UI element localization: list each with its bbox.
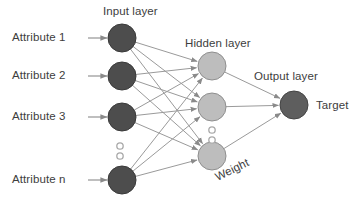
attribute-label-1: Attribute 1 xyxy=(12,31,66,44)
input-node-4 xyxy=(108,166,136,194)
neural-network-diagram: Input layer Hidden layer Output layer Ta… xyxy=(0,0,361,207)
input-to-hidden-edges xyxy=(130,42,203,177)
hidden-to-output-edges xyxy=(223,72,281,150)
output-layer-nodes xyxy=(280,91,308,119)
hidden-node-2 xyxy=(198,93,226,121)
input-node-2 xyxy=(108,62,136,90)
edge-h3-o1 xyxy=(223,113,281,149)
edge-h2-o1 xyxy=(225,105,279,106)
attribute-label-2: Attribute 2 xyxy=(12,69,66,82)
edge-i3-h1 xyxy=(133,74,198,111)
input-arrows xyxy=(88,38,107,180)
hidden-layer-title: Hidden layer xyxy=(185,37,251,50)
hidden-ellipsis-dot-2 xyxy=(209,137,215,143)
attribute-label-n: Attribute n xyxy=(12,173,66,186)
edge-i2-h1 xyxy=(135,68,197,75)
input-layer-nodes xyxy=(108,24,136,194)
output-node-1 xyxy=(280,91,308,119)
edge-i2-h2 xyxy=(134,80,197,102)
input-node-1 xyxy=(108,24,136,52)
target-label: Target xyxy=(316,99,349,112)
output-layer-title: Output layer xyxy=(254,70,318,83)
hidden-layer-nodes xyxy=(198,52,226,170)
input-ellipsis-dot-2 xyxy=(117,153,123,159)
input-ellipsis-dot-1 xyxy=(117,143,123,149)
input-node-3 xyxy=(108,103,136,131)
input-layer-title: Input layer xyxy=(103,5,158,18)
hidden-node-3 xyxy=(198,142,226,170)
hidden-node-1 xyxy=(198,52,226,80)
attribute-label-3: Attribute 3 xyxy=(12,110,66,123)
edge-i1-h2 xyxy=(132,46,199,98)
hidden-ellipsis-dot-1 xyxy=(209,127,215,133)
edge-i1-h3 xyxy=(130,48,203,143)
